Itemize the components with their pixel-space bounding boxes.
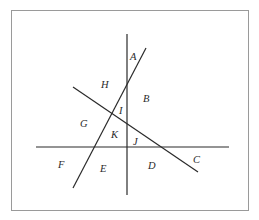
region-label-e: E — [99, 163, 107, 174]
intersecting-lines-diagram: A B C D E F G H I J K — [0, 0, 259, 220]
region-label-i: I — [118, 105, 123, 116]
shallow-diagonal-line — [73, 87, 198, 172]
region-label-j: J — [133, 136, 139, 147]
region-label-d: D — [147, 160, 156, 171]
region-label-b: B — [143, 93, 150, 104]
region-label-h: H — [100, 79, 110, 90]
region-label-a: A — [129, 51, 137, 62]
region-label-g: G — [80, 118, 88, 129]
region-label-c: C — [193, 154, 201, 165]
region-labels-group: A B C D E F G H I J K — [57, 51, 201, 174]
region-label-f: F — [57, 159, 65, 170]
region-label-k: K — [110, 129, 119, 140]
